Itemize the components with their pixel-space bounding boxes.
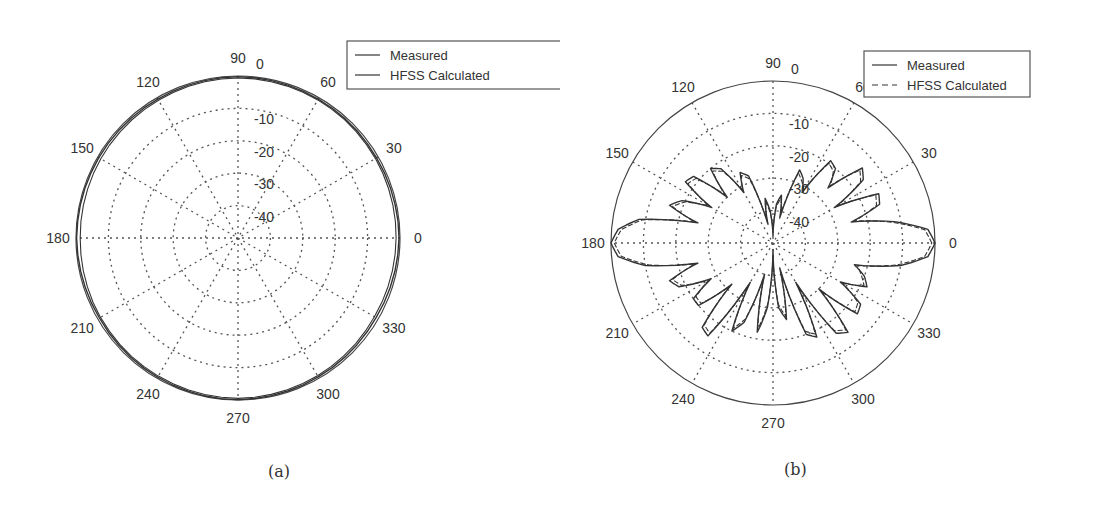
caption-a: (a) — [268, 462, 290, 481]
angle-tick-labels: 0306090120150180210240270300330 — [46, 50, 422, 426]
angle-tick-120: 120 — [671, 79, 695, 95]
radial-tick--20: -20 — [789, 149, 809, 165]
legend: MeasuredHFSS Calculated — [347, 41, 560, 89]
radial-tick-labels: 0-10-20-30-40 — [789, 61, 809, 230]
angle-tick-120: 120 — [136, 74, 160, 90]
caption-b: (b) — [784, 460, 807, 479]
angle-tick-240: 240 — [136, 386, 160, 402]
legend-measured-label: Measured — [390, 48, 448, 63]
radial-tick--40: -40 — [254, 209, 274, 225]
polar-plot-b: 03060901201501802102402703003300-10-20-3… — [555, 0, 1110, 518]
legend-measured-label: Measured — [907, 58, 965, 73]
angle-tick-330: 330 — [917, 325, 941, 341]
legend-hfss-label: HFSS Calculated — [390, 68, 490, 83]
polar-chart-b-svg: 03060901201501802102402703003300-10-20-3… — [555, 0, 1110, 518]
angle-tick-300: 300 — [851, 391, 875, 407]
angle-tick-210: 210 — [605, 325, 629, 341]
radial-tick--10: -10 — [789, 116, 809, 132]
angle-tick-90: 90 — [230, 50, 246, 66]
legend: MeasuredHFSS Calculated — [864, 51, 1030, 97]
radial-tick-0: 0 — [256, 56, 264, 72]
radial-tick-0: 0 — [791, 61, 799, 77]
angle-tick-240: 240 — [671, 391, 695, 407]
angle-tick-270: 270 — [226, 410, 250, 426]
radial-tick--30: -30 — [789, 181, 809, 197]
angle-tick-0: 0 — [414, 230, 422, 246]
polar-chart-a-svg: 03060901201501802102402703003300-10-20-3… — [0, 0, 560, 518]
angle-tick-30: 30 — [386, 140, 402, 156]
angle-tick-labels: 0306090120150180210240270300330 — [581, 55, 957, 431]
radial-tick--40: -40 — [789, 214, 809, 230]
series-hfss-calculated — [614, 163, 932, 334]
angle-tick-180: 180 — [581, 235, 605, 251]
angle-tick-150: 150 — [70, 140, 94, 156]
angle-tick-300: 300 — [316, 386, 340, 402]
legend-hfss-label: HFSS Calculated — [907, 78, 1007, 93]
angle-tick-270: 270 — [761, 415, 785, 431]
radial-tick--30: -30 — [254, 176, 274, 192]
angle-tick-0: 0 — [949, 235, 957, 251]
angle-tick-30: 30 — [921, 145, 937, 161]
angle-tick-60: 60 — [320, 74, 336, 90]
angle-tick-330: 330 — [382, 320, 406, 336]
angle-tick-150: 150 — [605, 145, 629, 161]
angle-tick-90: 90 — [765, 55, 781, 71]
radial-tick--10: -10 — [254, 111, 274, 127]
polar-plot-a: 03060901201501802102402703003300-10-20-3… — [0, 0, 560, 518]
angle-tick-180: 180 — [46, 230, 70, 246]
polar-grid — [611, 81, 935, 405]
radial-tick--20: -20 — [254, 144, 274, 160]
angle-tick-210: 210 — [70, 320, 94, 336]
